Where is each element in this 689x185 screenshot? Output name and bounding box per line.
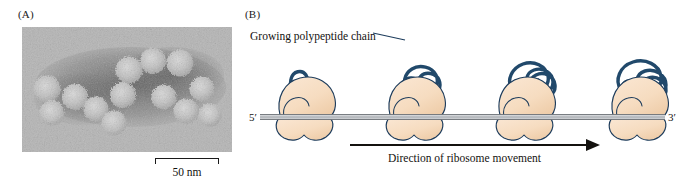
- mrna-3-prime-label: 3′: [668, 111, 676, 123]
- ribosome-3: [496, 63, 555, 140]
- direction-arrow: [350, 139, 600, 151]
- ribosome-1: [276, 72, 335, 141]
- scale-bar-cap-left: [155, 158, 156, 164]
- figure-root: (A): [0, 0, 689, 185]
- mrna-5-prime-label: 5′: [249, 111, 257, 123]
- scale-bar-line: [155, 158, 219, 159]
- ribosome-4: [609, 61, 668, 140]
- panel-a-label: (A): [18, 8, 34, 20]
- mrna-strand: [260, 115, 665, 120]
- ribosome-2: [386, 67, 445, 141]
- electron-micrograph: [22, 27, 232, 152]
- scale-bar: 50 nm: [155, 158, 219, 182]
- direction-of-ribosome-movement-label: Direction of ribosome movement: [388, 152, 541, 164]
- scale-bar-label: 50 nm: [155, 166, 219, 178]
- scale-bar-cap-right: [218, 158, 219, 164]
